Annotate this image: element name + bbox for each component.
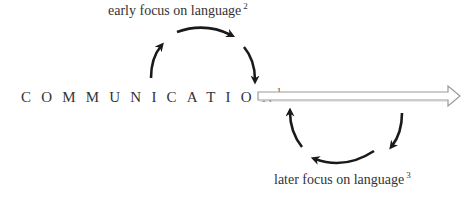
lower-left-curved-arrow-icon [290,112,302,147]
diagram-canvas [0,0,470,203]
upper-right-curved-arrow-icon [244,47,255,80]
lower-right-curved-arrow-icon [392,113,402,146]
upper-left-curved-arrow-icon [151,46,161,78]
lower-bottom-curved-arrow-icon [315,151,374,163]
timeline-arrow-icon [258,86,460,106]
upper-top-curved-arrow-icon [177,28,231,35]
